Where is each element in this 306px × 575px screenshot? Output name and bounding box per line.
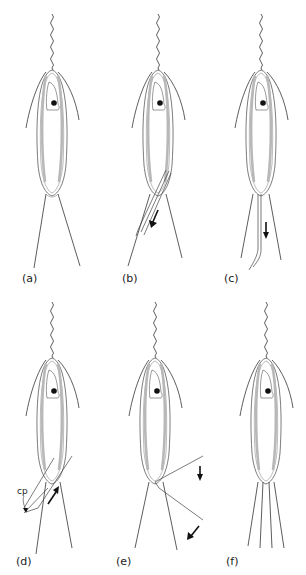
diagram-canvas <box>0 0 306 575</box>
panel-f <box>240 302 293 548</box>
panel-label-d: (d) <box>16 555 32 568</box>
panel-e <box>129 302 203 550</box>
panel-label-e: (e) <box>116 555 131 568</box>
panel-label-a: (a) <box>22 272 37 285</box>
panel-label-c: (c) <box>224 272 239 285</box>
panel-label-b: (b) <box>122 272 138 285</box>
panel-c <box>235 14 288 270</box>
panel-b <box>128 14 185 266</box>
panel-d <box>23 302 79 554</box>
cp-annotation: cp <box>17 486 28 496</box>
panel-a <box>26 14 80 268</box>
panel-label-f: (f) <box>226 555 238 568</box>
